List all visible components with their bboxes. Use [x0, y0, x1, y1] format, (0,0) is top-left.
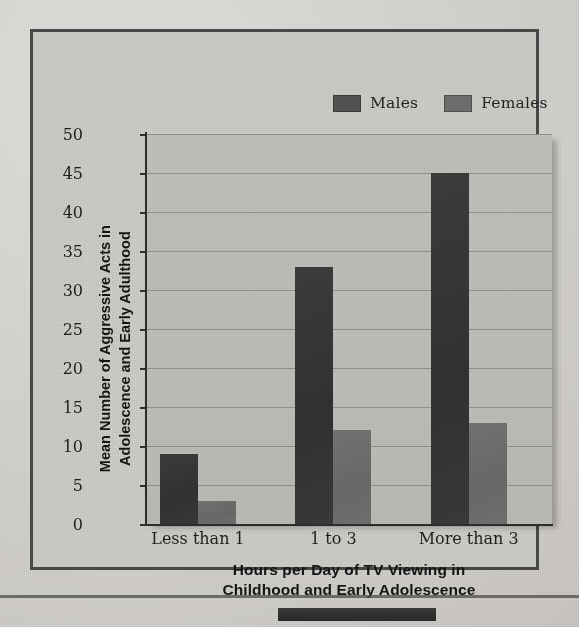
y-tick-mark-15 [140, 407, 146, 409]
x-axis-title-line1: Hours per Day of TV Viewing in [146, 560, 552, 580]
x-tick-label-1: 1 to 3 [310, 529, 357, 548]
bar-males-1 [295, 267, 333, 524]
legend-swatch-males-icon [333, 95, 361, 112]
x-tick-label-2: More than 3 [419, 529, 519, 548]
bars-layer [146, 134, 552, 524]
y-tick-label-20: 20 [63, 359, 83, 378]
chart-legend: Males Females [333, 94, 548, 112]
y-tick-label-45: 45 [63, 164, 83, 183]
legend-entry-females: Females [444, 94, 548, 112]
y-tick-label-40: 40 [63, 203, 83, 222]
x-axis-line [145, 524, 553, 526]
y-tick-mark-5 [140, 485, 146, 487]
y-tick-mark-10 [140, 446, 146, 448]
bar-females-1 [333, 430, 371, 524]
x-tick-label-0: Less than 1 [151, 529, 244, 548]
y-tick-label-35: 35 [63, 242, 83, 261]
page-rule [0, 595, 579, 598]
bar-males-0 [160, 454, 198, 524]
y-tick-mark-0 [140, 524, 146, 526]
y-axis-title-line1: Mean Number of Aggressive Acts in [96, 149, 116, 549]
y-tick-label-0: 0 [73, 515, 83, 534]
y-axis-title: Mean Number of Aggressive Acts in Adoles… [96, 149, 135, 549]
x-axis-tick-labels: Less than 11 to 3More than 3 [146, 529, 552, 557]
y-tick-label-5: 5 [73, 476, 83, 495]
y-tick-mark-50 [140, 134, 146, 136]
y-tick-label-50: 50 [63, 125, 83, 144]
y-tick-label-15: 15 [63, 398, 83, 417]
y-tick-mark-25 [140, 329, 146, 331]
figure-frame: Males Females 05101520253035404550 Less … [30, 29, 539, 570]
y-tick-label-25: 25 [63, 320, 83, 339]
y-tick-label-10: 10 [63, 437, 83, 456]
y-axis-title-line2: Adolescence and Early Adulthood [116, 149, 136, 549]
page-artifact-bar [278, 608, 436, 621]
y-tick-label-30: 30 [63, 281, 83, 300]
bar-females-0 [198, 501, 236, 524]
legend-label-females: Females [481, 94, 548, 112]
legend-entry-males: Males [333, 94, 418, 112]
bar-females-2 [469, 423, 507, 524]
y-tick-mark-40 [140, 212, 146, 214]
legend-label-males: Males [370, 94, 418, 112]
y-tick-mark-30 [140, 290, 146, 292]
bar-males-2 [431, 173, 469, 524]
y-tick-mark-45 [140, 173, 146, 175]
legend-swatch-females-icon [444, 95, 472, 112]
y-tick-mark-35 [140, 251, 146, 253]
y-tick-mark-20 [140, 368, 146, 370]
